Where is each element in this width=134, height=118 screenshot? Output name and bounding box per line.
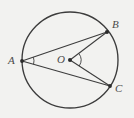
point-label-o: O bbox=[57, 54, 65, 65]
circle-geometry-figure: A B C O bbox=[0, 0, 134, 118]
point-label-c: C bbox=[115, 83, 122, 94]
angle-arc-at-a bbox=[33, 57, 34, 64]
point-dot-a bbox=[20, 59, 24, 63]
point-label-a: A bbox=[8, 55, 15, 66]
point-dot-c bbox=[108, 84, 112, 88]
point-dot-o bbox=[68, 58, 72, 62]
point-label-b: B bbox=[112, 19, 119, 30]
chord-ac-line bbox=[22, 61, 110, 86]
angle-arc-at-o bbox=[79, 53, 81, 66]
point-dot-b bbox=[105, 30, 109, 34]
radius-ob-line bbox=[70, 32, 107, 60]
radius-oc-line bbox=[70, 60, 110, 86]
